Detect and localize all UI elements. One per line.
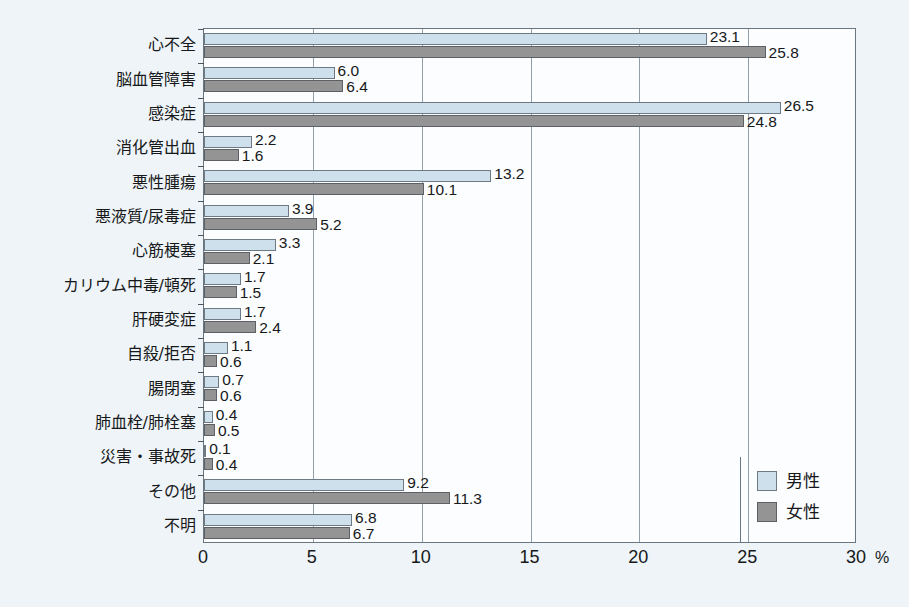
legend: 男性 女性 [740, 457, 856, 543]
bar-value-label: 6.4 [346, 79, 368, 95]
bar-value-label: 1.5 [240, 285, 262, 301]
bar-value-label: 6.7 [353, 526, 375, 542]
y-axis-tick [198, 63, 204, 64]
category-label: 脳血管障害 [0, 72, 196, 88]
y-axis-tick [198, 235, 204, 236]
bar-value-label: 2.4 [259, 320, 281, 336]
y-axis-tick [198, 407, 204, 408]
category-label: 肺血栓/肺栓塞 [0, 415, 196, 431]
bar-row: 6.06.4 [204, 63, 855, 97]
x-tick-label: 15 [519, 548, 539, 566]
bar-value-label: 25.8 [769, 45, 799, 61]
legend-item-female: 女性 [757, 502, 820, 522]
bar-value-label: 0.5 [218, 423, 240, 439]
category-label: 感染症 [0, 106, 196, 122]
y-axis-tick [198, 166, 204, 167]
bar-value-label: 23.1 [710, 29, 740, 45]
bar-value-label: 0.6 [220, 388, 242, 404]
bar-female [204, 458, 213, 470]
category-label: 心筋梗塞 [0, 243, 196, 259]
y-axis-tick [198, 29, 204, 30]
bar-value-label: 2.1 [253, 251, 275, 267]
y-axis-tick [198, 304, 204, 305]
bar-female [204, 424, 215, 436]
legend-label-female: 女性 [786, 504, 820, 521]
bar-male [204, 33, 707, 45]
bar-value-label: 6.0 [338, 63, 360, 79]
legend-swatch-female-icon [757, 502, 777, 522]
y-axis-tick [198, 441, 204, 442]
bar-male [204, 273, 241, 285]
bar-row: 1.71.5 [204, 269, 855, 303]
y-axis-tick [198, 338, 204, 339]
y-axis-tick [198, 510, 204, 511]
bar-male [204, 376, 219, 388]
category-label: カリウム中毒/頓死 [0, 278, 196, 294]
bar-female [204, 389, 217, 401]
bar-male [204, 67, 335, 79]
bar-chart: 心不全脳血管障害感染症消化管出血悪性腫瘍悪液質/尿毒症心筋梗塞カリウム中毒/頓死… [0, 0, 909, 607]
bar-female [204, 218, 317, 230]
bar-value-label: 0.4 [216, 457, 238, 473]
bar-male [204, 102, 781, 114]
bar-value-label: 0.1 [209, 441, 231, 457]
bar-row: 1.10.6 [204, 338, 855, 372]
bar-value-label: 0.4 [216, 407, 238, 423]
bar-value-label: 6.8 [355, 510, 377, 526]
bar-value-label: 3.9 [292, 201, 314, 217]
bar-value-label: 0.6 [220, 354, 242, 370]
bar-row: 26.524.8 [204, 98, 855, 132]
x-tick-label: 10 [411, 548, 431, 566]
y-axis-tick [198, 132, 204, 133]
category-label: 心不全 [0, 37, 196, 53]
bar-male [204, 205, 289, 217]
y-axis-tick [198, 201, 204, 202]
bar-female [204, 115, 744, 127]
y-axis-tick [198, 372, 204, 373]
bar-female [204, 321, 256, 333]
category-label: 自殺/拒否 [0, 346, 196, 362]
legend-swatch-male-icon [757, 471, 777, 491]
bar-male [204, 514, 352, 526]
bar-value-label: 0.7 [222, 372, 244, 388]
bar-value-label: 5.2 [320, 217, 342, 233]
bar-value-label: 1.7 [244, 304, 266, 320]
bar-male [204, 445, 206, 457]
category-label: その他 [0, 484, 196, 500]
bar-row: 1.72.4 [204, 304, 855, 338]
bar-value-label: 1.7 [244, 269, 266, 285]
x-axis-unit-label: % [875, 550, 889, 566]
bar-row: 3.95.2 [204, 201, 855, 235]
bar-value-label: 3.3 [279, 235, 301, 251]
bar-value-label: 2.2 [255, 132, 277, 148]
bar-row: 0.40.5 [204, 407, 855, 441]
bar-row: 2.21.6 [204, 132, 855, 166]
bar-row: 13.210.1 [204, 166, 855, 200]
bar-female [204, 46, 766, 58]
x-tick-label: 20 [628, 548, 648, 566]
bar-female [204, 355, 217, 367]
bar-value-label: 1.6 [242, 148, 264, 164]
category-label: 不明 [0, 518, 196, 534]
category-label: 消化管出血 [0, 140, 196, 156]
x-tick-label: 0 [198, 548, 208, 566]
bar-row: 23.125.8 [204, 29, 855, 63]
x-tick-label: 25 [737, 548, 757, 566]
bar-value-label: 10.1 [427, 182, 457, 198]
category-label: 肝硬変症 [0, 312, 196, 328]
category-label: 災害・事故死 [0, 449, 196, 465]
y-axis-tick [198, 475, 204, 476]
bar-female [204, 80, 343, 92]
bar-female [204, 183, 424, 195]
bar-female [204, 252, 250, 264]
y-axis-tick [198, 98, 204, 99]
category-label: 悪性腫瘍 [0, 175, 196, 191]
legend-item-male: 男性 [757, 471, 820, 491]
bar-value-label: 24.8 [747, 114, 777, 130]
bar-male [204, 308, 241, 320]
bar-male [204, 479, 404, 491]
bar-female [204, 492, 450, 504]
bar-value-label: 13.2 [494, 166, 524, 182]
category-label: 悪液質/尿毒症 [0, 209, 196, 225]
y-axis-tick [198, 269, 204, 270]
